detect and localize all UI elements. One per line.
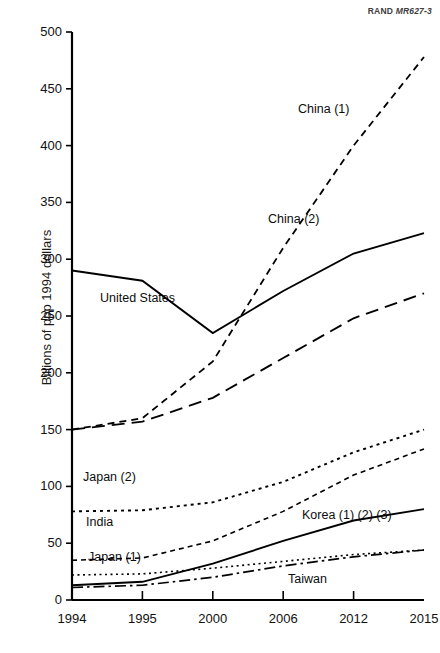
- chart-figure: RAND MR627-3 Billions of ppp 1994 dollar…: [0, 0, 440, 653]
- axes: [72, 32, 424, 600]
- series-line-china-2: [72, 293, 424, 429]
- series-line-india: [72, 449, 424, 560]
- series-line-japan-2: [72, 430, 424, 512]
- series-line-united-states: [72, 233, 424, 333]
- series-lines: [72, 57, 424, 588]
- x-axis-tick-marks: [142, 591, 353, 600]
- plot-area: [0, 0, 440, 653]
- series-line-korea-1-2-3: [72, 509, 424, 585]
- series-line-china-1: [72, 57, 424, 430]
